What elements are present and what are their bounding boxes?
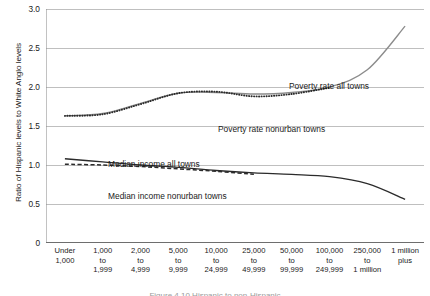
- y-tick-label: 1.0: [14, 161, 40, 169]
- x-tick-label: 2,000 to 4,999: [122, 246, 160, 294]
- annotation-median-income-all-towns: Median income all towns: [108, 159, 200, 169]
- x-tick-label: 100,000 to 249,999: [311, 246, 349, 294]
- x-tick-label: 50,000 to 99,999: [273, 246, 311, 294]
- x-tick-label: 1,000 to 1,999: [84, 246, 122, 294]
- annotation-poverty-all-towns: Poverty rate all towns: [289, 81, 369, 91]
- y-axis-tick-labels: 3.0 2.5 2.0 1.5 1.0 0.5 0: [14, 0, 40, 296]
- x-tick-label: 5,000 to 9,999: [159, 246, 197, 294]
- figure-caption: Figure 4.10 Hispanic to non-Hispanic: [0, 291, 430, 296]
- x-tick-label: Under 1,000: [46, 246, 84, 294]
- plot-area: Poverty rate all towns Poverty rate nonu…: [46, 9, 424, 243]
- series-line-0: [65, 26, 405, 116]
- annotation-poverty-nonurban-towns: Poverty rate nonurban towns: [218, 124, 325, 134]
- x-axis-tick-labels: Under 1,000 1,000 to 1,999 2,000 to 4,99…: [46, 246, 424, 294]
- x-tick-label: 10,000 to 24,999: [197, 246, 235, 294]
- data-series: [65, 26, 405, 199]
- x-tick-label: 1 million plus: [386, 246, 424, 294]
- y-tick-label: 2.5: [14, 44, 40, 52]
- gridlines: [46, 10, 424, 205]
- y-tick-label: 1.5: [14, 122, 40, 130]
- y-tick-label: 0: [14, 239, 40, 247]
- x-tick-label: 250,000 to 1 million: [348, 246, 386, 294]
- x-tick-label: 25,000 to 49,999: [235, 246, 273, 294]
- y-tick-label: 2.0: [14, 83, 40, 91]
- y-tick-label: 3.0: [14, 5, 40, 13]
- annotation-median-income-nonurban-towns: Median income nonurban towns: [108, 191, 227, 201]
- chart-figure: Ratio of Hispanic levels to White Anglo …: [0, 0, 430, 296]
- y-tick-label: 0.5: [14, 200, 40, 208]
